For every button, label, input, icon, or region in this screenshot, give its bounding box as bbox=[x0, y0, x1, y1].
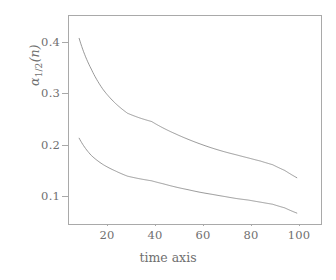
x-tick-label: 100 bbox=[288, 228, 311, 242]
y-tick-label: 0.1 bbox=[41, 189, 60, 203]
plot-area bbox=[68, 15, 322, 225]
y-axis-label-subscript: 1/2 bbox=[34, 62, 44, 77]
x-axis-label: time axis bbox=[0, 250, 336, 265]
y-tick-label: 0.3 bbox=[41, 86, 60, 100]
y-tick-label: 0.2 bbox=[41, 138, 60, 152]
y-axis-label-symbol: α bbox=[27, 78, 42, 86]
x-tick-label: 80 bbox=[243, 228, 258, 242]
x-tick-label: 40 bbox=[147, 228, 162, 242]
y-axis-label-argument: (n) bbox=[27, 45, 42, 63]
x-tick-label: 60 bbox=[195, 228, 210, 242]
x-tick-label: 20 bbox=[99, 228, 114, 242]
curve-alpha-2 bbox=[79, 138, 297, 213]
plot-canvas bbox=[69, 16, 321, 224]
y-tick-label: 0.4 bbox=[41, 35, 60, 49]
curve-alpha-1 bbox=[79, 38, 297, 177]
chart-figure: 0.4 0.3 0.2 0.1 20 40 60 80 100 α1/2(n) … bbox=[0, 0, 336, 280]
